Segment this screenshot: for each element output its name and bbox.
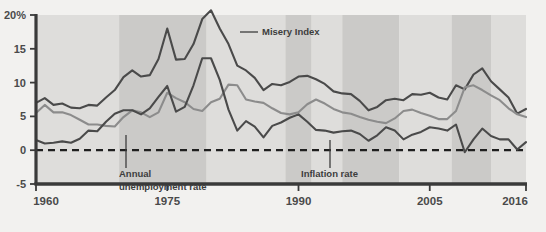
- x-axis-tick-label: 1960: [33, 195, 59, 207]
- chart-canvas: 20%151050-519601975199020052016Misery In…: [0, 0, 546, 232]
- y-axis-tick-label: 5: [20, 110, 26, 122]
- x-axis-tick-label: 1975: [154, 195, 180, 207]
- recession-bands-group: [36, 15, 526, 184]
- y-axis-tick-label: -5: [16, 178, 26, 190]
- recession-band: [285, 15, 311, 184]
- annotation-label-inflation-rate: Inflation rate: [301, 168, 358, 179]
- annotation-label-misery-index: Misery Index: [262, 26, 320, 37]
- recession-band: [452, 15, 491, 184]
- x-axis-tick-label: 1990: [286, 195, 312, 207]
- misery-index-chart: 20%151050-519601975199020052016Misery In…: [0, 0, 546, 232]
- y-axis-tick-label: 20%: [4, 9, 26, 21]
- y-axis-tick-label: 0: [20, 144, 26, 156]
- y-axis-tick-label: 10: [14, 77, 26, 89]
- x-axis-tick-label: 2005: [417, 195, 443, 207]
- annotation-label-annual-unemployment-rate-line2: unemployment rate: [119, 181, 207, 192]
- x-axis-tick-label: 2016: [502, 195, 528, 207]
- y-axis-tick-label: 15: [14, 43, 26, 55]
- recession-band: [36, 15, 119, 184]
- annotation-label-annual-unemployment-rate-line1: Annual: [119, 168, 151, 179]
